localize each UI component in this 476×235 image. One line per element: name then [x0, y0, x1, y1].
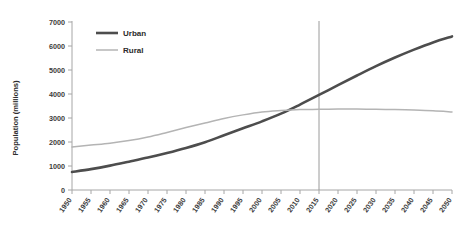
- x-tick-label: 1970: [133, 196, 150, 214]
- x-tick-label: 2035: [380, 196, 397, 214]
- y-tick-label: 0: [61, 186, 65, 195]
- y-tick-label: 7000: [49, 18, 65, 27]
- x-tick-label: 1990: [209, 196, 226, 214]
- x-tick-label: 1985: [190, 196, 207, 214]
- y-axis-title: Population (millions): [11, 80, 20, 156]
- x-tick-label: 1960: [95, 196, 112, 214]
- x-tick-label: 2010: [285, 196, 302, 214]
- x-tick-label: 2005: [266, 196, 283, 214]
- x-tick-label: 2050: [437, 196, 454, 214]
- y-tick-label: 3000: [49, 114, 65, 123]
- x-tick-label: 2040: [399, 196, 416, 214]
- legend-label-urban: Urban: [123, 29, 146, 38]
- x-tick-label: 1975: [152, 196, 169, 214]
- y-axis-ticks: [68, 22, 72, 190]
- series-line-rural: [72, 109, 452, 147]
- chart-canvas: 01000200030004000500060007000 1950195519…: [0, 0, 476, 235]
- series-layer: [72, 36, 452, 172]
- chart-legend: UrbanRural: [96, 29, 146, 55]
- x-tick-label: 2000: [247, 196, 264, 214]
- x-tick-label: 1980: [171, 196, 188, 214]
- x-tick-label: 1965: [114, 196, 131, 214]
- x-tick-label: 1950: [57, 196, 74, 214]
- x-tick-label: 1955: [76, 196, 93, 214]
- legend-label-rural: Rural: [123, 46, 143, 55]
- x-axis-tick-labels: 1950195519601965197019751980198519901995…: [57, 196, 454, 214]
- y-tick-label: 1000: [49, 162, 65, 171]
- x-tick-label: 1995: [228, 196, 245, 214]
- x-tick-label: 2020: [323, 196, 340, 214]
- y-tick-label: 5000: [49, 66, 65, 75]
- y-tick-label: 4000: [49, 90, 65, 99]
- x-axis-ticks: [72, 190, 452, 194]
- series-line-urban: [72, 36, 452, 172]
- x-tick-label: 2025: [342, 196, 359, 214]
- y-axis-tick-labels: 01000200030004000500060007000: [49, 18, 65, 195]
- urban-rural-population-chart: 01000200030004000500060007000 1950195519…: [0, 0, 476, 235]
- y-tick-label: 6000: [49, 42, 65, 51]
- y-tick-label: 2000: [49, 138, 65, 147]
- x-tick-label: 2030: [361, 196, 378, 214]
- x-tick-label: 2045: [418, 196, 435, 214]
- x-tick-label: 2015: [304, 196, 321, 214]
